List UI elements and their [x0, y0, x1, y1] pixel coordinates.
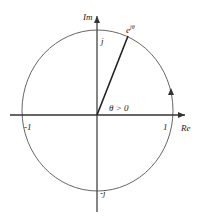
- tick-label-one: 1: [163, 122, 168, 132]
- complex-plane-diagram: Im Re j -j 1 -1 θ > 0 ejθ: [0, 0, 200, 224]
- tick-label-neg-one: -1: [24, 122, 32, 132]
- angle-label: θ > 0: [109, 103, 129, 113]
- point-label-exponent: jθ: [129, 24, 135, 30]
- tick-label-neg-j: -j: [100, 188, 106, 198]
- counterclockwise-arrow-icon: [168, 88, 174, 95]
- imag-axis-label: Im: [82, 12, 93, 22]
- tick-label-j: j: [100, 36, 104, 46]
- point-label: ejθ: [126, 24, 135, 35]
- real-axis-label: Re: [180, 123, 191, 133]
